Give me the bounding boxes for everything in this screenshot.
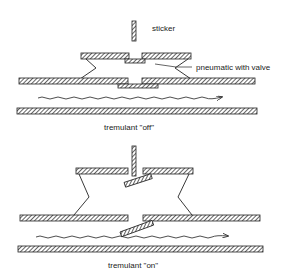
trunk-upper-right [143, 215, 260, 221]
trunk-lower [17, 108, 257, 114]
trunk-lower [18, 246, 263, 252]
sticker [132, 21, 136, 41]
trunk-upper-right [142, 78, 255, 84]
caption-on: tremulant "on" [108, 261, 158, 270]
tremulant-diagram: sticker pneumatic with valve tremulant "… [0, 0, 305, 278]
bottom-valve-open [120, 220, 154, 236]
airflow-arrow [38, 97, 222, 99]
pneumatic-top-left [76, 168, 128, 174]
top-valve-open [124, 174, 152, 187]
pneumatic-top-right [142, 53, 191, 59]
pneumatic-bellows-right [178, 174, 192, 215]
panel-tremulant-off: sticker pneumatic with valve tremulant "… [17, 21, 271, 132]
top-valve [125, 59, 145, 63]
panel-tremulant-on: tremulant "on" [18, 146, 263, 270]
pneumatic-top-right [143, 168, 193, 174]
trunk-upper-left [20, 215, 128, 221]
sticker-label: sticker [152, 24, 175, 33]
trunk-upper-left [19, 78, 128, 84]
bottom-valve [118, 84, 158, 88]
airflow-arrow [36, 236, 228, 238]
sticker [132, 146, 136, 176]
pneumatic-leader-line [155, 64, 176, 67]
pneumatic-bellows-left [80, 59, 96, 79]
pneumatic-label: pneumatic with valve [196, 63, 271, 72]
pneumatic-top-left [81, 53, 129, 59]
pneumatic-bellows-right [175, 59, 191, 79]
caption-off: tremulant "off" [104, 123, 154, 132]
pneumatic-bellows-left [74, 174, 89, 215]
